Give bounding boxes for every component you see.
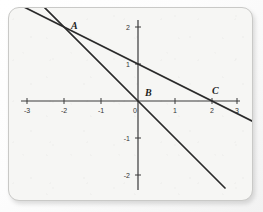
figure-card: -3 -2 -1 0 1 2 3 2 1 -1 -2 A B C	[8, 7, 253, 201]
x-tick-label--1: -1	[98, 107, 104, 114]
y-tick-label--1: -1	[124, 135, 130, 142]
x-tick-label-2: 2	[210, 107, 214, 114]
y-tick-label-1: 1	[126, 61, 130, 68]
point-label-c: C	[212, 85, 219, 96]
graph-line-steep	[31, 8, 225, 188]
x-tick-label--2: -2	[61, 107, 67, 114]
x-tick-label-1: 1	[173, 107, 177, 114]
screenshot-root: -3 -2 -1 0 1 2 3 2 1 -1 -2 A B C	[0, 0, 263, 212]
x-tick-label-0: 0	[133, 107, 137, 114]
x-tick-label--3: -3	[24, 107, 30, 114]
graph-line-shallow	[18, 8, 252, 122]
point-label-b: B	[144, 87, 152, 98]
coordinate-plane: -3 -2 -1 0 1 2 3 2 1 -1 -2 A B C	[9, 8, 252, 200]
y-tick-label-2: 2	[126, 24, 130, 31]
y-tick-label--2: -2	[124, 172, 130, 179]
point-label-a: A	[70, 20, 78, 31]
